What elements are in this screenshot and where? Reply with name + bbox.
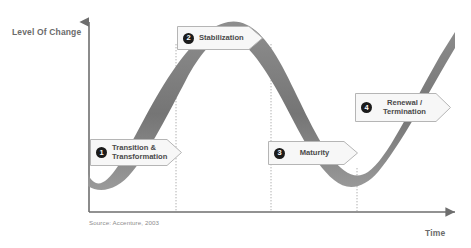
change-lifecycle-diagram: Level Of Change Time Source: Accenture, … xyxy=(0,0,471,248)
y-axis-label: Level Of Change xyxy=(12,27,81,37)
callout-badge-3: 3 xyxy=(274,148,285,159)
callout-renewal-termination[interactable]: 4 Renewal / Termination xyxy=(355,93,451,122)
callout-transition-transformation[interactable]: 1 Transition & Transformation xyxy=(90,139,182,166)
callout-badge-2: 2 xyxy=(183,33,194,44)
callout-body: 1 Transition & Transformation xyxy=(90,139,182,166)
callout-label-3: Maturity xyxy=(285,149,344,158)
callout-body: 4 Renewal / Termination xyxy=(355,93,451,122)
callout-badge-4: 4 xyxy=(361,102,372,113)
x-axis-label: Time xyxy=(425,228,445,238)
callout-body: 2 Stabilization xyxy=(177,26,263,50)
source-note: Source: Accenture, 2003 xyxy=(89,219,159,226)
callout-maturity[interactable]: 3 Maturity xyxy=(268,141,358,165)
callout-label-4: Renewal / Termination xyxy=(372,99,437,117)
callout-label-1: Transition & Transformation xyxy=(112,144,167,162)
callout-badge-1: 1 xyxy=(96,147,107,158)
callout-body: 3 Maturity xyxy=(268,141,358,165)
callout-stabilization[interactable]: 2 Stabilization xyxy=(177,26,263,50)
callout-label-2: Stabilization xyxy=(199,34,244,43)
